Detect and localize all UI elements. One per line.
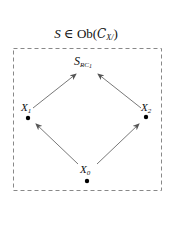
arrow-x0-to-x2	[97, 124, 139, 164]
node-label-x2: X2	[141, 101, 151, 117]
node-dot-x0	[85, 179, 89, 183]
node-label-x1: X1	[21, 101, 31, 117]
node-label-x0: X0	[80, 163, 90, 179]
node-label-x1-name: X	[21, 101, 28, 113]
node-label-src1-subsub: 1	[89, 63, 92, 69]
node-label-x2-name: X	[141, 101, 148, 113]
node-label-x0-sub: 0	[87, 169, 91, 177]
node-label-x0-name: X	[80, 163, 87, 175]
arrow-x1-to-src1	[33, 74, 76, 108]
arrow-x0-to-x1	[36, 124, 78, 164]
node-label-src1: SRC1	[74, 55, 92, 72]
node-label-x2-sub: 2	[148, 107, 152, 115]
node-label-x1-sub: 1	[28, 107, 32, 115]
node-label-src1-sub-text: RC	[80, 61, 89, 69]
arrow-x2-to-src1	[98, 74, 141, 108]
node-label-src1-sub: RC1	[80, 61, 92, 69]
